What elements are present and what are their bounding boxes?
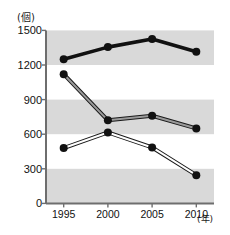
y-tick-label-300: 300 xyxy=(24,163,42,175)
y-axis-tick-labels: 1500 1200 900 600 300 0 xyxy=(18,24,42,209)
x-tick-label-2005: 2005 xyxy=(140,208,164,220)
y-tick-label-1500: 1500 xyxy=(18,24,42,36)
x-tick-label-2000: 2000 xyxy=(96,208,120,220)
x-tick-label-2010: 2010 xyxy=(185,208,209,220)
y-tick-label-0: 0 xyxy=(36,197,42,209)
data-point-s2-1995 xyxy=(60,70,68,78)
band-1200-1500 xyxy=(46,30,214,65)
data-point-s1-2000 xyxy=(104,43,112,51)
data-point-s3-2010 xyxy=(192,171,200,179)
y-tick-label-1200: 1200 xyxy=(18,59,42,71)
series-3-line-outline xyxy=(64,132,197,175)
data-point-s2-2005 xyxy=(148,112,156,120)
data-point-s1-2005 xyxy=(148,35,156,43)
data-point-s1-2010 xyxy=(192,48,200,56)
x-axis-tick-labels: 1995 2000 2005 2010 xyxy=(52,208,208,220)
data-point-s2-2010 xyxy=(192,124,200,132)
y-tick-label-900: 900 xyxy=(24,94,42,106)
line-chart: (個) (年) 1500 1200 900 600 300 0 1995 xyxy=(0,0,230,235)
data-point-s3-2005 xyxy=(148,143,156,151)
data-point-s1-1995 xyxy=(60,55,68,63)
data-point-s2-2000 xyxy=(104,116,112,124)
band-0-300 xyxy=(46,169,214,204)
chart-plot-area: 1500 1200 900 600 300 0 1995 2000 2005 2… xyxy=(0,0,230,235)
data-point-s3-1995 xyxy=(60,144,68,152)
data-point-s3-2000 xyxy=(104,128,112,136)
y-tick-label-600: 600 xyxy=(24,128,42,140)
x-tick-label-1995: 1995 xyxy=(52,208,76,220)
